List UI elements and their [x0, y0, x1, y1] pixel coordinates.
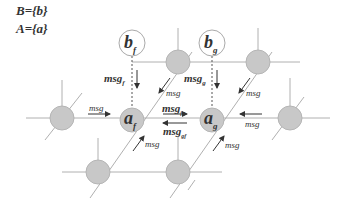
- msg-label-right: msg: [245, 119, 260, 129]
- arrow-msg-bottom-to-af: [133, 136, 144, 151]
- gray-node-top-middle: [166, 50, 190, 74]
- gray-node-right: [278, 106, 302, 130]
- msg-label-top-af: msg: [166, 88, 181, 98]
- msg-label-top-ag: msg: [246, 88, 261, 98]
- msg-label-bottom-af: msg: [145, 139, 160, 149]
- msg-f-label: msgf: [104, 72, 125, 87]
- arrow-msg-bottom-to-ag: [213, 136, 224, 151]
- gray-node-top-right: [246, 50, 270, 74]
- gray-node-bottom-middle: [166, 160, 190, 184]
- msg-g-label: msgg: [184, 72, 206, 87]
- msg-fg-label: msgfg: [162, 102, 185, 116]
- gray-node-left: [50, 106, 74, 130]
- msg-gf-label: msggf: [163, 125, 187, 139]
- msg-label-bottom-ag: msg: [225, 140, 240, 150]
- gray-node-bottom-left: [86, 160, 110, 184]
- msg-label-left: msg: [89, 103, 104, 113]
- factor-graph-diagram: bf bg af ag msgf msgg msgfg msggf msg ms…: [0, 0, 342, 201]
